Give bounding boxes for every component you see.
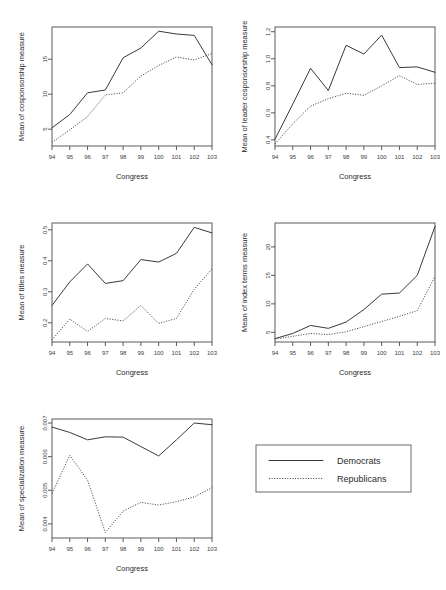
x-tick-label: 96 [84,350,91,356]
x-tick-label: 95 [289,154,296,160]
x-tick-label: 97 [102,154,109,160]
x-tick-label: 99 [138,350,145,356]
x-tick-label: 95 [66,350,73,356]
series-line-republicans [52,269,212,340]
x-tick-label: 100 [154,154,165,160]
series-line-democrats [275,35,435,139]
chart-panel-titles: 0.20.30.40.5949596979899100101102103Cong… [0,196,223,393]
y-tick-label: 1.0 [265,54,271,63]
chart-panel-cosponsorship: 51015949596979899100101102103CongressMea… [0,0,223,197]
series-line-democrats [52,31,212,128]
y-tick-label: 0.4 [265,135,271,144]
x-tick-label: 97 [102,350,109,356]
y-tick-label: 0.2 [42,318,48,327]
legend-label-democrats: Democrats [337,456,381,466]
x-tick-label: 103 [430,154,441,160]
series-line-republicans [275,277,435,340]
y-tick-label: 20 [265,243,271,250]
y-tick-label: 0.4 [42,256,48,265]
x-tick-label: 100 [377,154,388,160]
y-tick-label: 0.3 [42,287,48,296]
chart-panel-specialization: 0.0040.0050.0060.00794959697989910010110… [0,392,223,589]
x-tick-label: 98 [120,154,127,160]
x-tick-label: 99 [138,154,145,160]
x-tick-label: 96 [307,154,314,160]
x-tick-label: 94 [272,350,279,356]
chart-panel-leader-cosponsorship: 0.40.60.81.01.2949596979899100101102103C… [223,0,446,197]
chart-svg-leader-cosponsorship: 0.40.60.81.01.2949596979899100101102103C… [223,0,446,197]
x-tick-label: 94 [49,154,56,160]
y-tick-label: 5 [265,330,271,334]
plot-frame [275,223,435,342]
y-tick-label: 10 [265,300,271,307]
x-tick-label: 98 [343,154,350,160]
legend-cell: Democrats Republicans [223,392,446,589]
x-tick-label: 97 [325,154,332,160]
y-tick-label: 5 [42,127,48,131]
x-tick-label: 101 [171,154,182,160]
x-tick-label: 98 [120,350,127,356]
y-tick-label: 0.006 [42,448,48,464]
x-tick-label: 103 [207,546,218,552]
y-axis-title: Mean of titles measure [17,245,26,321]
x-tick-label: 100 [154,350,165,356]
x-axis-title: Congress [339,368,371,377]
figure-panel-grid: 51015949596979899100101102103CongressMea… [0,0,446,590]
y-tick-label: 0.005 [42,482,48,498]
x-tick-label: 101 [394,350,405,356]
x-tick-label: 102 [189,350,200,356]
plot-frame [52,223,212,342]
x-tick-label: 101 [171,546,182,552]
x-tick-label: 102 [412,154,423,160]
x-tick-label: 99 [361,350,368,356]
chart-panel-index-terms: 5101520949596979899100101102103CongressM… [223,196,446,393]
plot-frame [275,27,435,146]
y-tick-label: 15 [265,271,271,278]
x-tick-label: 103 [207,154,218,160]
legend-border [256,445,411,492]
series-line-democrats [52,227,212,305]
x-tick-label: 96 [84,546,91,552]
chart-svg-index-terms: 5101520949596979899100101102103CongressM… [223,196,446,393]
x-tick-label: 100 [377,350,388,356]
x-tick-label: 101 [171,350,182,356]
series-line-republicans [52,455,212,532]
x-axis-title: Congress [116,368,148,377]
x-axis-title: Congress [339,172,371,181]
y-tick-label: 0.007 [42,415,48,431]
series-line-democrats [275,226,435,338]
x-tick-label: 95 [66,154,73,160]
x-tick-label: 94 [49,350,56,356]
y-tick-label: 1.2 [265,27,271,36]
x-tick-label: 102 [189,154,200,160]
x-tick-label: 95 [289,350,296,356]
x-tick-label: 103 [430,350,441,356]
x-tick-label: 97 [325,350,332,356]
plot-frame [52,27,212,146]
chart-svg-specialization: 0.0040.0050.0060.00794959697989910010110… [0,392,223,589]
x-tick-label: 102 [412,350,423,356]
series-line-republicans [52,54,212,143]
x-tick-label: 96 [307,350,314,356]
y-tick-label: 0.5 [42,225,48,234]
x-tick-label: 96 [84,154,91,160]
x-tick-label: 100 [154,546,165,552]
plot-frame [52,419,212,538]
y-tick-label: 0.6 [265,108,271,117]
series-line-republicans [275,76,435,144]
x-tick-label: 95 [66,546,73,552]
y-axis-title: Mean of leader cosponsorship measure [240,21,249,153]
x-tick-label: 101 [394,154,405,160]
y-axis-title: Mean of index terms measure [240,233,249,332]
y-tick-label: 15 [42,55,48,62]
y-axis-title: Mean of specialization measure [17,426,26,531]
legend-svg: Democrats Republicans [223,392,446,589]
x-tick-label: 94 [49,546,56,552]
x-tick-label: 97 [102,546,109,552]
x-tick-label: 103 [207,350,218,356]
y-axis-title: Mean of cosponsorship measure [17,32,26,141]
chart-svg-titles: 0.20.30.40.5949596979899100101102103Cong… [0,196,223,393]
x-tick-label: 99 [138,546,145,552]
x-tick-label: 99 [361,154,368,160]
y-tick-label: 10 [42,90,48,97]
